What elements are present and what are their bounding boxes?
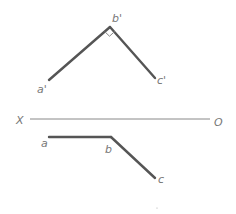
label-a-prime: a': [37, 83, 47, 96]
label-b: b: [105, 143, 112, 156]
segment-b-prime-c-prime: [110, 27, 155, 78]
segment-b-c: [111, 137, 155, 178]
label-c-prime: c': [157, 74, 166, 87]
projection-diagram: b' a' c' X O a b c: [0, 0, 236, 214]
stray-dot: [156, 207, 157, 208]
label-c: c: [158, 173, 164, 186]
label-b-prime: b': [112, 12, 122, 25]
label-o: O: [214, 116, 223, 129]
label-x: X: [15, 114, 24, 127]
label-a: a: [41, 137, 48, 150]
segment-a-prime-b-prime: [49, 27, 110, 80]
right-angle-mark: [105, 32, 115, 37]
